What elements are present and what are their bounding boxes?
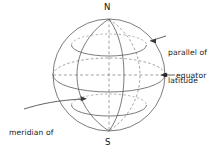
parallel-leader-arrowhead xyxy=(150,39,156,44)
north-pole-label: N xyxy=(104,3,111,12)
equator-endpoint-marker xyxy=(164,73,168,77)
parallel-of-latitude-label: parallel of latitude xyxy=(168,30,207,104)
meridian-of-longitude-center xyxy=(109,19,124,131)
meridian-label-line-1: meridian of xyxy=(9,128,54,137)
equator-label: equator xyxy=(176,71,206,80)
globe-diagram: N S parallel of latitude equator meridia… xyxy=(0,0,220,154)
meridian-of-longitude-label: meridian of longitude xyxy=(9,110,54,154)
parallel-label-line-1: parallel of xyxy=(168,48,207,57)
equator-back-arc xyxy=(53,58,165,75)
south-pole-label: S xyxy=(105,138,111,147)
